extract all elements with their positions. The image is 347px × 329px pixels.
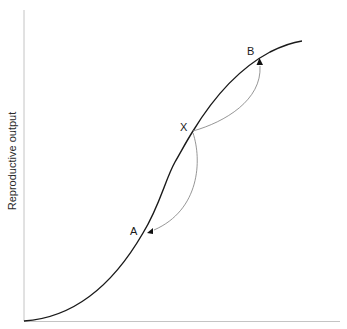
point-label-x: X <box>180 122 187 133</box>
y-axis-label: Reproductive output <box>6 112 18 210</box>
point-label-a: A <box>130 226 137 237</box>
sigmoid-curve <box>24 41 302 321</box>
figure: Reproductive output A X B <box>0 0 347 329</box>
diagram-canvas <box>0 0 347 329</box>
arrow-x-to-a <box>154 133 197 230</box>
point-label-b: B <box>247 46 254 57</box>
arrowhead-a-icon <box>147 228 153 234</box>
arrow-x-to-b <box>193 66 260 131</box>
